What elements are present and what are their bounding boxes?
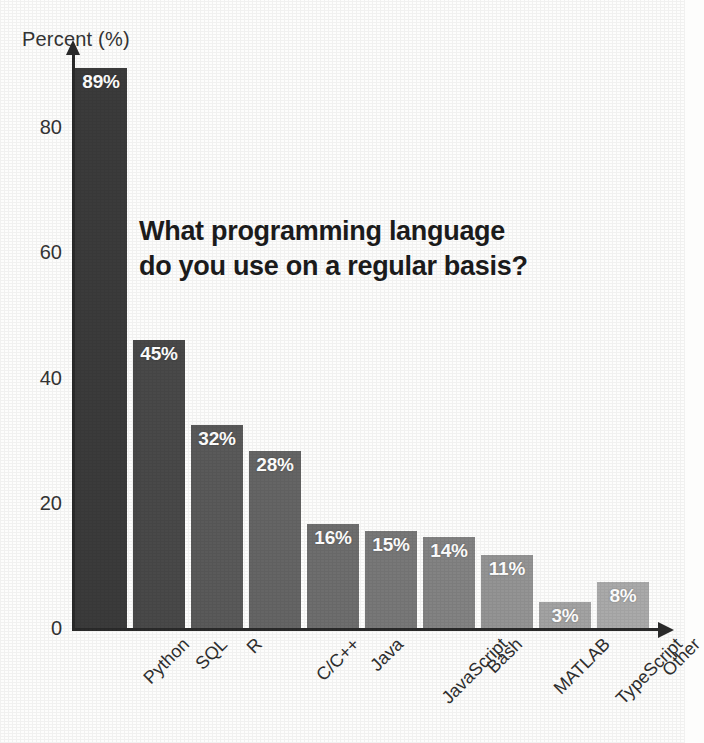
x-axis-label: R (243, 634, 267, 658)
x-axis-label: SQL (192, 634, 232, 674)
x-axis-label: C/C++ (312, 634, 364, 686)
bar-value-label: 16% (307, 527, 359, 549)
y-tick-label: 40 (22, 366, 62, 389)
bar: 28% (249, 451, 301, 628)
bar-value-label: 8% (597, 585, 649, 607)
x-axis-line (72, 628, 662, 631)
chart-title-line-2: do you use on a regular basis? (139, 249, 559, 284)
x-axis-label: Java (366, 634, 408, 676)
x-axis-category-labels: PythonSQLRC/C++JavaJavaScriptBashMATLABT… (75, 634, 675, 743)
chart-title: What programming language do you use on … (139, 214, 559, 284)
bar-value-label: 14% (423, 540, 475, 562)
plot-area: 89%45%32%28%16%15%14%11%3%8% (75, 52, 661, 628)
bar-value-label: 11% (481, 558, 533, 580)
bar-value-label: 28% (249, 454, 301, 476)
bar-value-label: 89% (75, 71, 127, 93)
x-axis-label: Python (139, 634, 193, 688)
bar: 45% (133, 340, 185, 628)
bar: 8% (597, 582, 649, 628)
y-axis-tick-labels: 020406080 (0, 0, 62, 743)
bar-value-label: 45% (133, 343, 185, 365)
y-tick-label: 60 (22, 241, 62, 264)
x-axis-label: MATLAB (550, 634, 615, 699)
bar-value-label: 32% (191, 428, 243, 450)
bar: 11% (481, 555, 533, 628)
chart-title-line-1: What programming language (139, 214, 559, 249)
y-tick-label: 0 (22, 617, 62, 640)
bar-value-label: 15% (365, 534, 417, 556)
y-tick-label: 20 (22, 491, 62, 514)
bar: 3% (539, 602, 591, 628)
bar: 32% (191, 425, 243, 628)
bar: 14% (423, 537, 475, 628)
y-tick-label: 80 (22, 116, 62, 139)
bar: 89% (75, 68, 127, 628)
bar-value-label: 3% (539, 605, 591, 627)
bar: 16% (307, 524, 359, 628)
bar: 15% (365, 531, 417, 628)
